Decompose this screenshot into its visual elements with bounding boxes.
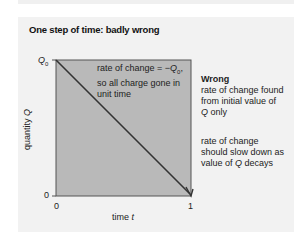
x-left-label: 0 [54,201,59,212]
plot-annotation: rate of change = −Q0, so all charge gone… [97,63,183,100]
chart [0,0,307,248]
y-axis-label: quantity Q [22,109,33,150]
side-note-wrong: Wrong rate of change found from initial … [201,74,284,118]
y-bottom-label: 0 [44,190,49,201]
x-axis-label: time t [112,212,134,223]
y-top-label: Q0 [38,55,48,70]
side-note-decay: rate of change should slow down as value… [201,136,284,169]
x-right-label: 1 [188,201,193,212]
